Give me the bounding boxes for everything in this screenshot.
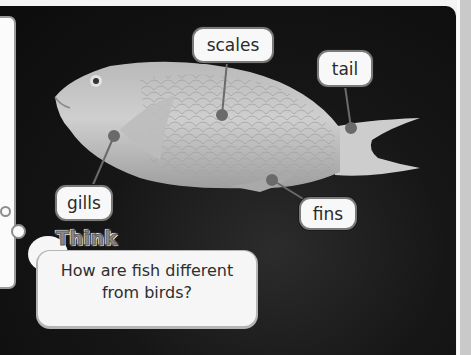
label-tail: tail xyxy=(317,50,373,87)
thought-dot-large xyxy=(11,224,26,239)
think-title: Think xyxy=(56,227,118,249)
label-scales-text: scales xyxy=(207,35,260,55)
label-scales: scales xyxy=(192,27,274,63)
thought-dot-small xyxy=(0,206,11,217)
label-gills-text: gills xyxy=(67,193,101,213)
label-fins: fins xyxy=(299,197,357,230)
side-text-panel xyxy=(0,16,16,289)
tail-fin-shape xyxy=(330,118,420,176)
label-tail-text: tail xyxy=(332,59,359,79)
think-question-line2: from birds? xyxy=(38,282,256,304)
label-gills: gills xyxy=(55,185,113,221)
think-question-line1: How are fish different xyxy=(38,260,256,282)
page-edge xyxy=(457,0,471,355)
think-question: How are fish different from birds? xyxy=(38,260,256,304)
label-fins-text: fins xyxy=(313,204,343,224)
